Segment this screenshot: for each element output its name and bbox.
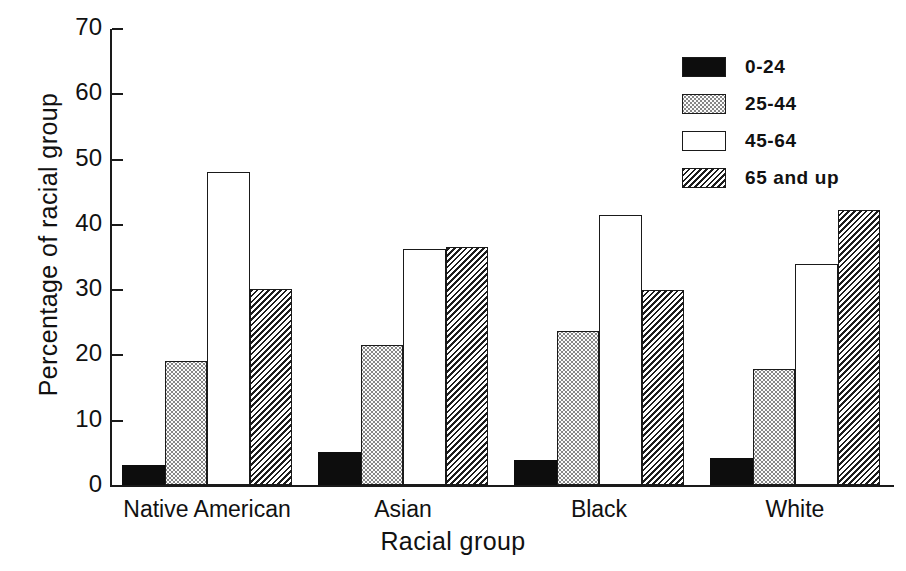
y-tick-label: 0 [89,471,102,497]
bar [207,172,250,485]
y-tick-mark [112,93,123,95]
legend-item: 25-44 [682,89,892,118]
legend-item: 65 and up [682,163,892,192]
bar [514,460,557,485]
y-tick-mark [112,224,123,226]
legend-swatch-empty [682,131,726,151]
bar [642,290,685,485]
bar [446,247,489,485]
chart-legend: 0-2425-4445-6465 and up [682,52,892,200]
y-tick-mark [112,159,123,161]
x-axis-title: Racial group [0,527,906,556]
legend-swatch-solid [682,57,726,77]
bar [122,465,165,485]
legend-swatch-hatch [682,168,726,188]
y-tick-mark [112,354,123,356]
y-tick-label: 20 [75,340,102,366]
y-tick-label: 70 [75,14,102,40]
x-label-asian: Asian [374,496,432,523]
legend-item: 45-64 [682,126,892,155]
legend-item: 0-24 [682,52,892,81]
legend-swatch-stipple [682,94,726,114]
bar [838,210,881,486]
x-label-native-american: Native American [123,496,290,523]
y-axis-line [110,29,112,486]
y-tick-label: 50 [75,145,102,171]
bar [599,215,642,485]
y-tick-label: 10 [75,406,102,432]
legend-label: 0-24 [745,56,785,78]
y-tick-label: 60 [75,79,102,105]
bar [250,289,293,485]
y-tick-mark [112,289,123,291]
y-axis-title: Percentage of racial group [34,80,63,410]
x-label-black: Black [571,496,627,523]
bar [361,345,404,485]
bar-chart-figure: Percentage of racial group 0102030405060… [0,0,906,571]
y-tick-mark [112,420,123,422]
legend-label: 45-64 [745,130,797,152]
bar [165,361,208,485]
legend-label: 65 and up [745,167,839,189]
bar [710,458,753,485]
y-tick-label: 40 [75,210,102,236]
legend-label: 25-44 [745,93,797,115]
bar [795,264,838,485]
bar [318,452,361,485]
y-tick-mark [112,28,123,30]
y-tick-mark [112,485,123,487]
bar [403,249,446,485]
x-axis-line [110,485,894,487]
bar [557,331,600,485]
bar [753,369,796,485]
y-tick-label: 30 [75,275,102,301]
x-label-white: White [766,496,825,523]
